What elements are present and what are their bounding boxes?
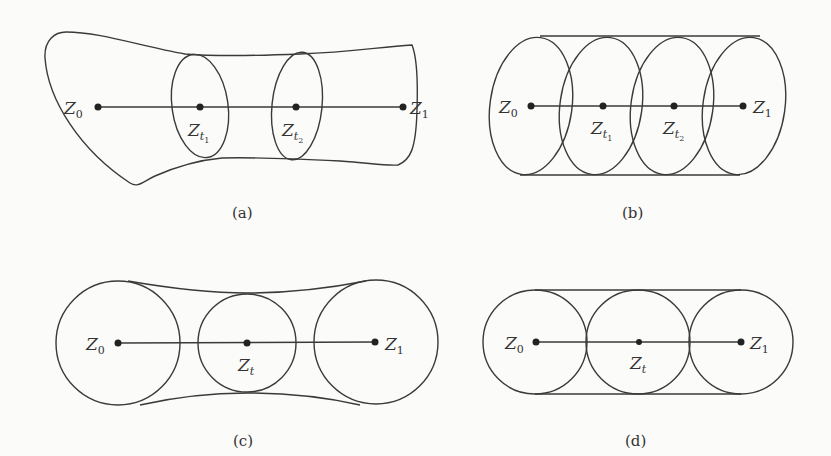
caption-a: (a)	[232, 204, 253, 222]
point-z1	[372, 339, 379, 346]
figure-canvas: Z0 Zt1 Zt2 Z1 (a) Z0 Zt1 Zt2	[0, 0, 831, 456]
label-z1: Z1	[384, 334, 404, 357]
label-z1: Z1	[409, 98, 429, 121]
concave-hull-bottom	[140, 393, 360, 405]
point-z0	[115, 340, 122, 347]
panel-c: Z0 Zt Z1 (c)	[56, 280, 438, 450]
point-z1	[740, 103, 747, 110]
point-z1	[738, 339, 745, 346]
label-zt1: Zt1	[590, 118, 612, 143]
caption-b: (b)	[622, 204, 643, 222]
point-zt	[636, 339, 642, 345]
point-zt2	[671, 103, 678, 110]
point-zt1	[600, 103, 607, 110]
panel-d: Z0 Zt Z1 (d)	[483, 290, 793, 450]
label-zt2: Zt2	[662, 118, 684, 143]
label-z1: Z1	[749, 333, 769, 356]
point-z0	[95, 104, 102, 111]
panel-a: Z0 Zt1 Zt2 Z1 (a)	[45, 32, 429, 222]
label-zt: Zt	[237, 355, 255, 378]
point-z0	[528, 103, 535, 110]
label-z0: Z0	[85, 334, 105, 357]
concave-hull-top	[128, 281, 366, 293]
point-zt2	[293, 104, 300, 111]
point-zt1	[197, 104, 204, 111]
point-z0	[533, 339, 540, 346]
label-z0: Z0	[504, 333, 524, 356]
caption-c: (c)	[233, 432, 253, 450]
label-zt2: Zt2	[281, 120, 303, 145]
point-zt	[244, 340, 251, 347]
label-z1: Z1	[752, 97, 772, 120]
label-z0: Z0	[498, 97, 518, 120]
label-zt: Zt	[629, 353, 647, 376]
label-z0: Z0	[63, 98, 83, 121]
point-z1	[400, 104, 407, 111]
label-zt1: Zt1	[187, 120, 209, 145]
caption-d: (d)	[625, 432, 646, 450]
panel-b: Z0 Zt1 Zt2 Z1 (b)	[481, 32, 794, 222]
